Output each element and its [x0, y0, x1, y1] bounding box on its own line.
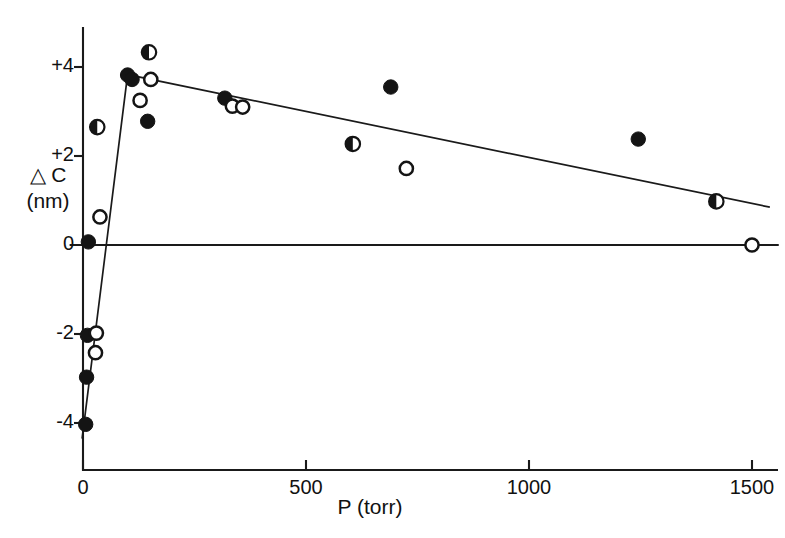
y-tick-label-0: +4 — [18, 54, 74, 77]
filled-circle-marker-0[interactable] — [81, 235, 95, 249]
x-tick-label-3: 1500 — [712, 476, 785, 499]
half-filled-circle-marker-3[interactable] — [709, 194, 723, 208]
open-circle-marker-0[interactable] — [93, 210, 106, 223]
x-tick-label-1: 500 — [266, 476, 346, 499]
filled-circle-marker-2[interactable] — [79, 370, 93, 384]
figure-root: △ C (nm) P (torr) +4+20-2-4 050010001500 — [0, 0, 785, 538]
half-filled-circle-marker-1[interactable] — [142, 45, 156, 59]
half-filled-circle-marker-0[interactable] — [90, 120, 104, 134]
open-circle-marker-8[interactable] — [745, 238, 758, 251]
filled-circle-marker-5[interactable] — [125, 72, 139, 86]
filled-circle-marker-3[interactable] — [78, 417, 92, 431]
y-tick-label-1: +2 — [18, 143, 74, 166]
data-points — [78, 45, 758, 431]
open-circle-marker-1[interactable] — [90, 327, 103, 340]
axes-group — [74, 27, 778, 471]
open-circle-marker-6[interactable] — [236, 100, 249, 113]
open-circle-marker-7[interactable] — [400, 162, 413, 175]
filled-circle-marker-9[interactable] — [631, 132, 645, 146]
x-tick-label-0: 0 — [43, 476, 123, 499]
filled-circle-marker-6[interactable] — [140, 114, 154, 128]
open-circle-marker-2[interactable] — [89, 346, 102, 359]
y-tick-label-4: -4 — [18, 410, 74, 433]
open-circle-marker-3[interactable] — [133, 94, 146, 107]
x-tick-label-2: 1000 — [489, 476, 569, 499]
filled-circle-marker-8[interactable] — [384, 80, 398, 94]
y-axis-title: △ C (nm) — [12, 162, 84, 214]
open-circle-marker-4[interactable] — [144, 73, 157, 86]
y-tick-label-2: 0 — [18, 232, 74, 255]
fit-line — [82, 75, 770, 439]
y-axis-title-line2: (nm) — [12, 188, 84, 214]
half-filled-circle-marker-2[interactable] — [346, 137, 360, 151]
scatter-plot-canvas — [0, 0, 785, 538]
fitted-curve — [82, 75, 770, 439]
y-tick-label-3: -2 — [18, 321, 74, 344]
